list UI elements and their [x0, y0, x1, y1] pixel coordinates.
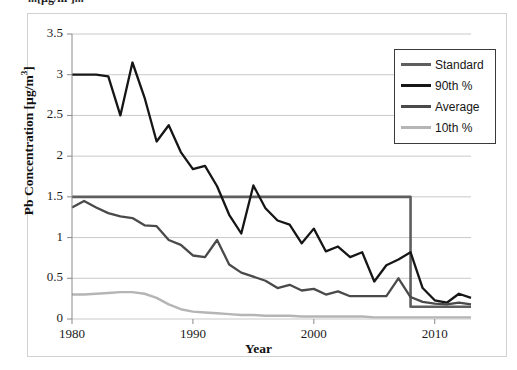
legend-label: Average [435, 100, 479, 114]
legend-item-90th[interactable]: 90th % [395, 75, 495, 96]
x-axis-title: Year [0, 341, 517, 357]
y-tick-label: 3.5 [28, 25, 63, 41]
x-tick-label: 1990 [163, 326, 223, 342]
y-tick-label: 1 [28, 229, 63, 245]
y-tick-label: 0.5 [28, 269, 63, 285]
legend-swatch-icon [401, 126, 431, 129]
legend-item-average[interactable]: Average [395, 96, 495, 117]
legend-swatch-icon [401, 84, 431, 87]
y-tickmarks-group [67, 34, 72, 319]
legend-label: Standard [435, 58, 484, 72]
legend-swatch-icon [401, 105, 431, 108]
chart-frame: 00.511.522.533.5 1980199020002010 Standa… [27, 13, 507, 357]
figure-container: ...[µg/m³]... 00.511.522.533.5 198019902… [0, 0, 517, 370]
legend-label: 90th % [435, 79, 472, 93]
legend-item-10th[interactable]: 10th % [395, 117, 495, 138]
legend-label: 10th % [435, 121, 472, 135]
x-tickmarks-group [72, 319, 435, 324]
clipped-caption-text: ...[µg/m³]... [28, 0, 228, 5]
y-axis-title: Pb Concentration [µg/m3] [19, 51, 37, 231]
legend-swatch-icon [401, 63, 431, 66]
legend-item-standard[interactable]: Standard [395, 54, 495, 75]
y-tick-label: 0 [28, 310, 63, 326]
x-tick-label: 1980 [42, 326, 102, 342]
x-tick-label: 2000 [284, 326, 344, 342]
chart-legend: Standard90th %Average10th % [394, 49, 496, 144]
x-tick-label: 2010 [405, 326, 465, 342]
